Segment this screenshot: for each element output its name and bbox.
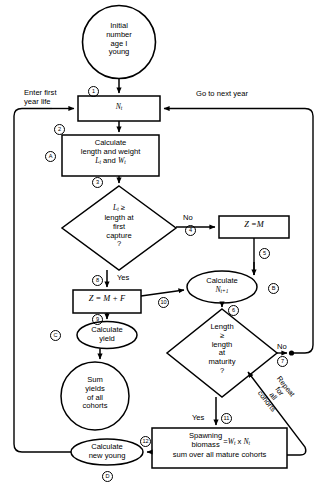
letter-marker-c: C: [50, 330, 61, 341]
spawning-biomass-label: Spawning biomass =Wt x Nt sum over all m…: [153, 432, 286, 459]
calc-lw-and: and: [101, 156, 118, 165]
no-maturity-label: No: [277, 343, 287, 352]
letter-marker-b: B: [268, 283, 279, 294]
spawning-biomass-top: Spawning biomass =Wt x Nt: [153, 432, 286, 450]
go-to-next-year-label: Go to next year: [196, 90, 248, 99]
step-marker-9: 9: [92, 314, 103, 325]
step-marker-10: 10: [158, 297, 169, 308]
step-marker-5: 5: [259, 248, 270, 259]
calc-ntplus1-line-1: Calculate: [192, 277, 252, 286]
calc-yield-label: Calculate yield: [77, 326, 137, 344]
step-marker-11: 11: [221, 413, 232, 424]
decision-maturity-label: Length ≥ length at maturity ?: [192, 323, 252, 376]
step-marker-7: 7: [277, 356, 288, 367]
step-marker-2: 2: [54, 124, 65, 135]
decision-capture-label: Lt ≥ length at first capture ?: [79, 204, 159, 249]
flowchart-diagram: Initial number age I young Enter first y…: [0, 0, 327, 500]
junction-dot: [289, 350, 294, 355]
start-line-4: young: [89, 48, 149, 57]
decision-capture-op: ≥: [119, 203, 125, 212]
decision-maturity-line-6: ?: [192, 367, 252, 376]
nt-subscript: t: [121, 105, 123, 111]
calc-yield-line-2: yield: [77, 335, 137, 344]
z-equals-m-label: Z =M: [219, 221, 289, 230]
calc-new-young-line-2: new young: [77, 452, 137, 461]
calc-ntplus1-label: Calculate Nt+1: [192, 277, 252, 296]
calc-ntplus1-N-sub: t+1: [221, 288, 229, 294]
calc-new-young-label: Calculate new young: [77, 443, 137, 461]
calc-length-weight-label: Calculate length and weight Lt and Wt: [63, 139, 158, 167]
spawning-N-sub: t: [249, 440, 251, 446]
sum-yields-line-4: cohorts: [65, 402, 125, 411]
yes-capture-label: Yes: [117, 274, 129, 283]
step-marker-6: 6: [228, 305, 239, 316]
letter-marker-a: A: [45, 151, 56, 162]
letter-marker-d: D: [102, 471, 113, 482]
step-marker-12: 12: [140, 436, 151, 447]
spawning-line-2: biomass: [189, 441, 222, 450]
calc-lw-formula: Lt and Wt: [63, 157, 158, 167]
z-equals-m-plus-f-label: Z = M + F: [73, 295, 141, 304]
spawning-line-3: sum over all mature cohorts: [153, 451, 286, 460]
calc-lw-W-sub: t: [124, 159, 126, 165]
no-capture-label: No: [183, 214, 193, 223]
step-marker-8: 8: [92, 275, 103, 286]
edge-right-outer-loop: [290, 109, 313, 354]
calc-ntplus1-formula: Nt+1: [192, 286, 252, 296]
sum-yields-label: Sum yields of all cohorts: [65, 376, 125, 411]
spawning-times: x: [236, 437, 244, 446]
start-circle-label: Initial number age I young: [89, 22, 149, 57]
decision-capture-line-5: ?: [79, 240, 159, 249]
flowchart-vector-layer: [0, 0, 327, 500]
step-marker-3: 3: [92, 177, 103, 188]
enter-first-year-line-2: year life: [24, 98, 86, 107]
edge-zmf-to-calc-ntplus1: [141, 290, 184, 296]
step-marker-1: 1: [88, 86, 99, 97]
nt-box-label: Nt: [89, 103, 149, 113]
yes-maturity-label: Yes: [192, 414, 204, 423]
step-marker-4: 4: [185, 225, 196, 236]
enter-first-year-label: Enter first year life: [24, 89, 86, 106]
